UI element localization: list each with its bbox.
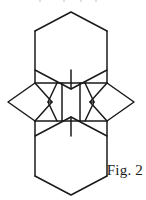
tile-faces (8, 12, 110, 195)
figure-container: Fig. 2 (0, 0, 146, 200)
edge-right-rhombus-point (107, 83, 134, 121)
figure-caption: Fig. 2 (107, 163, 143, 178)
